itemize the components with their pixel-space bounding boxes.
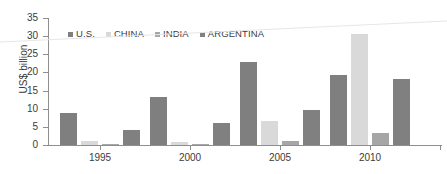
bar-us-2000 (150, 97, 167, 145)
legend-item-us: U.S. (68, 29, 95, 39)
y-tick-label: 10 (0, 104, 38, 114)
bar-india-2010 (372, 133, 389, 145)
x-axis-tick (100, 146, 101, 150)
y-axis-tick-labels: 35 30 25 20 15 10 5 0 (0, 0, 42, 174)
legend-label: ARGENTINA (208, 29, 264, 39)
bar-india-2005 (282, 141, 299, 145)
x-axis-tick (280, 146, 281, 150)
bar-china-2005 (261, 121, 278, 145)
legend-item-india: INDIA (155, 29, 189, 39)
legend-item-argentina: ARGENTINA (200, 29, 264, 39)
legend-swatch-icon (68, 32, 73, 37)
bar-argentina-2005 (303, 110, 320, 145)
y-tick-label: 35 (0, 13, 38, 23)
y-tick-label: 25 (0, 49, 38, 59)
bar-us-2010 (330, 75, 347, 145)
bar-china-2000 (171, 142, 188, 145)
y-tick-label: 20 (0, 67, 38, 77)
bar-chart: US$ billion 35 30 25 20 15 10 5 0 199520… (0, 0, 447, 174)
legend-label: INDIA (163, 29, 189, 39)
chart-legend: U.S. CHINA INDIA ARGENTINA (68, 28, 275, 40)
x-axis-label: 2000 (160, 152, 220, 164)
x-axis-label: 2005 (250, 152, 310, 164)
bar-us-2005 (240, 62, 257, 145)
bar-india-2000 (192, 144, 209, 145)
x-axis-tick-end (440, 146, 441, 150)
bar-china-1995 (81, 141, 98, 145)
bar-china-2010 (351, 34, 368, 145)
legend-label: CHINA (114, 29, 144, 39)
bar-argentina-2000 (213, 123, 230, 145)
legend-swatch-icon (106, 32, 111, 37)
x-axis-tick (370, 146, 371, 150)
y-tick-label: 0 (0, 140, 38, 150)
bar-argentina-2010 (393, 79, 410, 145)
bar-india-1995 (102, 144, 119, 145)
y-tick-label: 15 (0, 86, 38, 96)
legend-swatch-icon (200, 32, 205, 37)
legend-label: U.S. (76, 29, 95, 39)
y-tick-label: 30 (0, 31, 38, 41)
x-axis-tick (190, 146, 191, 150)
x-axis-label: 2010 (340, 152, 400, 164)
bar-us-1995 (60, 113, 77, 145)
legend-item-china: CHINA (106, 29, 144, 39)
legend-swatch-icon (155, 32, 160, 37)
x-axis-line (48, 145, 442, 146)
y-tick-label: 5 (0, 122, 38, 132)
x-axis-label: 1995 (70, 152, 130, 164)
bar-argentina-1995 (123, 130, 140, 145)
